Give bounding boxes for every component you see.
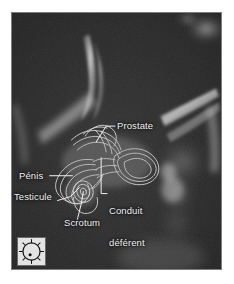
label-testicule: Testicule	[14, 192, 52, 203]
orientation-marker-inset	[17, 237, 46, 266]
orientation-marker-icon	[18, 238, 45, 265]
annotated-scan-figure: Prostate Pénis Testicule Conduit déféren…	[0, 0, 234, 284]
leader-line-scrotum	[77, 192, 83, 220]
label-scrotum: Scrotum	[64, 218, 100, 229]
label-conduit-deferent-line2: déférent	[109, 238, 145, 249]
label-conduit-deferent: Conduit déférent	[109, 185, 145, 269]
leader-line-prostate	[96, 126, 115, 142]
label-penis: Pénis	[19, 171, 43, 182]
leader-line-conduit-deferent	[101, 158, 107, 194]
label-prostate: Prostate	[117, 121, 153, 132]
leader-line-testicule	[58, 188, 80, 201]
label-conduit-deferent-line1: Conduit	[109, 206, 145, 217]
